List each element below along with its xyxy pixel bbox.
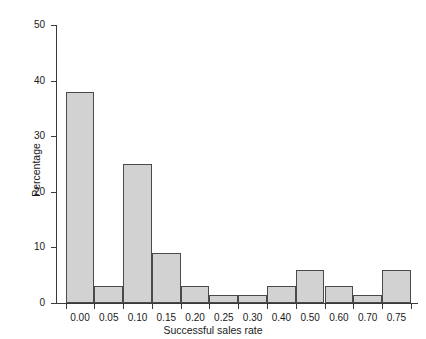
y-tick-mark — [51, 25, 56, 26]
y-tick-label: 40 — [34, 76, 45, 86]
x-tick-label: 0.70 — [358, 312, 377, 323]
x-tick-mark — [296, 304, 297, 309]
bar — [325, 286, 354, 303]
bar — [209, 295, 238, 303]
x-tick-label: 0.50 — [300, 312, 319, 323]
x-tick-label: 0.00 — [70, 312, 89, 323]
bar — [296, 270, 325, 303]
y-tick-mark — [51, 303, 56, 304]
y-tick-label: 30 — [34, 131, 45, 141]
bar — [94, 286, 123, 303]
y-tick-label: 50 — [34, 20, 45, 30]
x-tick-mark — [382, 304, 383, 309]
x-tick-mark — [353, 304, 354, 309]
x-tick-label: 0.05 — [99, 312, 118, 323]
y-tick-label: 10 — [34, 242, 45, 252]
bar — [382, 270, 411, 303]
y-tick-label: 20 — [34, 187, 45, 197]
bar — [152, 253, 181, 303]
y-tick-mark — [51, 136, 56, 137]
y-tick-mark — [51, 81, 56, 82]
x-tick-label: 0.40 — [272, 312, 291, 323]
x-tick-label: 0.10 — [128, 312, 147, 323]
bar — [238, 295, 267, 303]
y-tick-mark — [51, 192, 56, 193]
bar — [66, 92, 95, 303]
x-tick-label: 0.20 — [185, 312, 204, 323]
x-tick-label: 0.75 — [387, 312, 406, 323]
x-tick-mark — [411, 304, 412, 309]
x-tick-mark — [152, 304, 153, 309]
x-tick-mark — [94, 304, 95, 309]
histogram-figure: Percentage 01020304050 0.000.050.100.150… — [0, 0, 426, 339]
bar — [353, 295, 382, 303]
plot-area — [57, 25, 418, 303]
x-tick-label: 0.25 — [214, 312, 233, 323]
x-axis-title: Successful sales rate — [0, 324, 426, 336]
x-tick-label: 0.15 — [157, 312, 176, 323]
x-tick-label: 0.60 — [329, 312, 348, 323]
x-tick-mark — [267, 304, 268, 309]
y-tick-label: 0 — [39, 298, 45, 308]
bar — [181, 286, 210, 303]
x-tick-mark — [209, 304, 210, 309]
x-tick-mark — [123, 304, 124, 309]
x-tick-mark — [325, 304, 326, 309]
y-tick-mark — [51, 247, 56, 248]
x-tick-label: 0.30 — [243, 312, 262, 323]
x-tick-mark — [181, 304, 182, 309]
x-tick-mark — [66, 304, 67, 309]
x-tick-mark — [238, 304, 239, 309]
bar — [123, 164, 152, 303]
bar — [267, 286, 296, 303]
